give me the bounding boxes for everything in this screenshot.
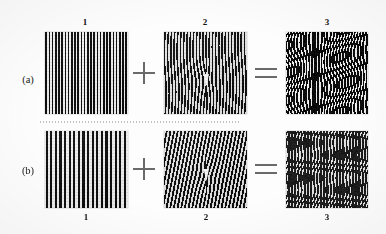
panel-pattern-canvas (164, 131, 247, 208)
panel-number-b1: 1 (76, 212, 96, 222)
panel-b3 (286, 131, 368, 208)
row-label-a: (a) (16, 74, 40, 85)
figure-root: (a) 1 2 3 (b) (0, 0, 386, 234)
panel-pattern-canvas (164, 32, 247, 114)
operator-equals-a (255, 67, 277, 79)
figure-row-a: (a) 1 2 3 (0, 14, 386, 118)
panel-a1 (45, 32, 128, 114)
figure-row-b: (b) 1 2 3 (0, 113, 386, 225)
panel-number-a2: 2 (195, 17, 215, 27)
panel-pattern-canvas (45, 32, 128, 114)
panel-a2 (164, 32, 247, 114)
panel-pattern-canvas (45, 131, 128, 208)
panel-number-b3: 3 (317, 212, 337, 222)
row-label-b: (b) (16, 165, 40, 176)
operator-equals-b (255, 163, 277, 175)
panel-b2 (164, 131, 247, 208)
operator-plus-a (133, 62, 155, 84)
panel-a3 (286, 32, 368, 114)
operator-plus-b (133, 158, 155, 180)
panel-b1 (45, 131, 128, 208)
panel-number-b2: 2 (196, 212, 216, 222)
panel-pattern-canvas (286, 32, 368, 114)
panel-number-a3: 3 (317, 17, 337, 27)
panel-pattern-canvas (286, 131, 368, 208)
panel-number-a1: 1 (75, 17, 95, 27)
